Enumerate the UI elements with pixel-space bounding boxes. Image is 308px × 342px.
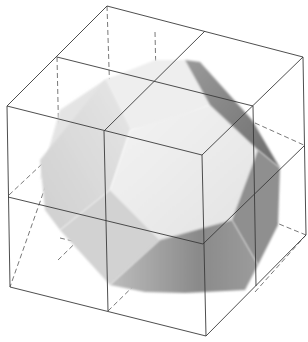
figure: Truncated octahedron inscribed in a 2x2x… [0,0,308,342]
truncated-octahedron [40,60,280,293]
polyhedron-illustration [0,0,308,342]
